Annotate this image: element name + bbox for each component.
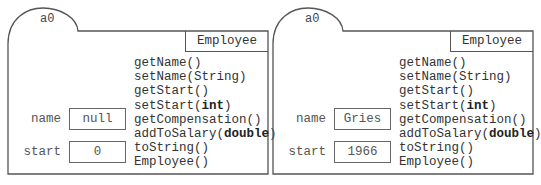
method-list: getName() setName(String) getStart() set… — [399, 56, 541, 170]
method-item: getName() — [134, 56, 277, 70]
method-item: getCompensation() — [399, 113, 541, 127]
method-item: addToSalary(double) — [399, 127, 541, 141]
object-name: a0 — [40, 12, 54, 26]
class-name-box: Employee — [185, 31, 268, 52]
method-item: addToSalary(double) — [134, 127, 277, 141]
field-label-start: start — [274, 145, 326, 159]
method-item: getStart() — [399, 84, 541, 98]
method-item: Employee() — [134, 155, 277, 169]
method-item: getCompensation() — [134, 113, 277, 127]
field-label-start: start — [9, 145, 61, 159]
object-folder-left: a0 Employee name null start 0 salary get… — [7, 0, 269, 185]
field-label-name: name — [9, 112, 61, 126]
method-item: getStart() — [134, 84, 277, 98]
method-list: getName() setName(String) getStart() set… — [134, 56, 277, 170]
object-name: a0 — [305, 12, 319, 26]
object-folder-right: a0 Employee name Gries start 1966 getNam… — [272, 0, 534, 185]
field-value-name: null — [69, 108, 126, 130]
field-label-name: name — [274, 112, 326, 126]
method-item: setStart(int) — [134, 99, 277, 113]
class-name-box: Employee — [450, 31, 533, 52]
method-item: toString() — [134, 141, 277, 155]
method-item: setStart(int) — [399, 99, 541, 113]
method-item: toString() — [399, 141, 541, 155]
method-item: setName(String) — [134, 70, 277, 84]
field-value-start: 0 — [69, 141, 126, 163]
method-item: Employee() — [399, 155, 541, 169]
method-item: getName() — [399, 56, 541, 70]
method-item: setName(String) — [399, 70, 541, 84]
field-value-start: 1966 — [334, 141, 391, 163]
field-value-name: Gries — [334, 108, 391, 130]
